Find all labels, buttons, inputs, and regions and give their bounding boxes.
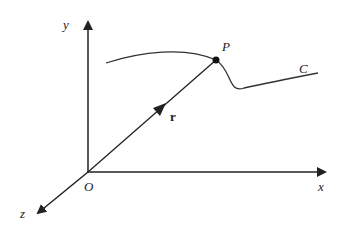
point-p-label: P [221, 39, 230, 54]
x-axis-label: x [317, 179, 324, 194]
z-axis-label: z [19, 206, 25, 221]
vector-r-label: r [170, 109, 176, 124]
origin-label: O [84, 179, 94, 194]
y-axis-label: y [61, 17, 69, 32]
curve-c-label: C [299, 61, 308, 76]
position-vector-r [88, 60, 216, 172]
curve-c [106, 52, 318, 89]
z-axis [38, 172, 88, 213]
point-p [213, 57, 220, 64]
diagram-canvas: y x z O P C r [0, 0, 345, 232]
